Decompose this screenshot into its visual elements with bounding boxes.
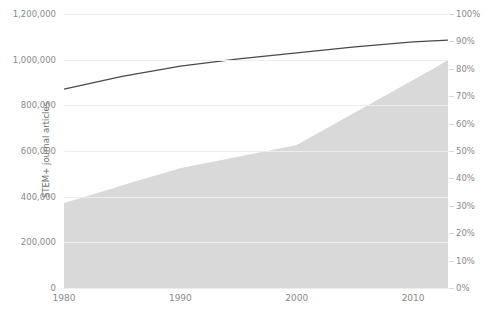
gridline [64, 105, 448, 106]
y-axis-right-tick-label: 40% [456, 173, 475, 183]
y-axis-right-tick-label: 60% [456, 119, 475, 129]
y-axis-right-tick-mark [449, 288, 454, 289]
y-axis-right-tick-label: 0% [456, 283, 470, 293]
gridline [64, 151, 448, 152]
line-series-share [64, 40, 448, 89]
y-axis-right-tick-mark [449, 41, 454, 42]
gridline [64, 60, 448, 61]
gridline [64, 242, 448, 243]
chart-container: STEM+ journal articles 0200,000400,00060… [0, 0, 488, 312]
gridline [64, 197, 448, 198]
y-axis-right-tick-label: 20% [456, 228, 475, 238]
y-axis-right-tick-label: 80% [456, 64, 475, 74]
y-axis-right-tick-label: 30% [456, 201, 475, 211]
y-axis-left-tick-label: 200,000 [0, 237, 56, 247]
y-axis-right-tick-mark [449, 96, 454, 97]
gridline [64, 14, 448, 15]
y-axis-right-tick-mark [449, 206, 454, 207]
x-axis-tick-label: 1980 [53, 293, 76, 303]
y-axis-right-tick-mark [449, 151, 454, 152]
y-axis-right-tick-label: 70% [456, 91, 475, 101]
y-axis-right-tick-mark [449, 261, 454, 262]
y-axis-right-tick-mark [449, 124, 454, 125]
y-axis-left-tick-label: 1,000,000 [0, 55, 56, 65]
y-axis-left-tick-label: 600,000 [0, 146, 56, 156]
x-axis-tick-label: 2010 [402, 293, 425, 303]
y-axis-left-tick-label: 1,200,000 [0, 9, 56, 19]
gridline [64, 288, 448, 289]
y-axis-right-tick-mark [449, 14, 454, 15]
y-axis-left-tick-label: 400,000 [0, 192, 56, 202]
x-axis-tick-label: 2000 [285, 293, 308, 303]
y-axis-left-tick-label: 0 [0, 283, 56, 293]
y-axis-right-tick-label: 10% [456, 256, 475, 266]
y-axis-right-tick-label: 90% [456, 36, 475, 46]
area-series-stem-articles [64, 60, 448, 288]
y-axis-right-tick-mark [449, 69, 454, 70]
y-axis-left-tick-label: 800,000 [0, 100, 56, 110]
y-axis-right-tick-label: 50% [456, 146, 475, 156]
x-axis-tick-label: 1990 [169, 293, 192, 303]
y-axis-right-tick-mark [449, 178, 454, 179]
y-axis-right-tick-mark [449, 233, 454, 234]
y-axis-right-tick-label: 100% [456, 9, 480, 19]
